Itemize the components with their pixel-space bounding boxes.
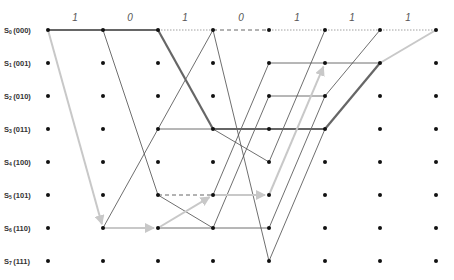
- state-node: [156, 193, 160, 197]
- transition-edge: [269, 96, 325, 228]
- state-node: [101, 94, 105, 98]
- state-node: [267, 61, 271, 65]
- state-node: [378, 28, 382, 32]
- transition-edge: [213, 129, 269, 162]
- state-node: [101, 28, 105, 32]
- highlight-path-arrow: [269, 67, 323, 195]
- state-node: [378, 226, 382, 230]
- state-node: [46, 226, 50, 230]
- state-node: [323, 259, 327, 263]
- state-node: [267, 193, 271, 197]
- state-labels: S0(000)S1(001)S2(010)S3(011)S4(100)S5(10…: [4, 26, 31, 267]
- state-node: [156, 127, 160, 131]
- state-label: S5(101): [4, 191, 31, 201]
- input-bit-label: 1: [72, 12, 78, 23]
- state-node: [434, 226, 438, 230]
- state-node: [211, 61, 215, 65]
- state-node: [156, 28, 160, 32]
- state-label: S7(111): [4, 257, 30, 267]
- state-node: [378, 160, 382, 164]
- state-node: [378, 193, 382, 197]
- state-node: [211, 226, 215, 230]
- state-node: [101, 226, 105, 230]
- state-node: [378, 61, 382, 65]
- transition-edge: [269, 129, 325, 261]
- state-node: [101, 127, 105, 131]
- transition-edge: [213, 96, 269, 228]
- state-node: [267, 94, 271, 98]
- state-node: [267, 226, 271, 230]
- input-bit-label: 1: [405, 12, 411, 23]
- state-node: [156, 226, 160, 230]
- state-node: [211, 127, 215, 131]
- state-node: [378, 127, 382, 131]
- transition-edge: [103, 129, 158, 228]
- state-node: [156, 160, 160, 164]
- input-bit-label: 0: [127, 12, 133, 23]
- state-label: S6(110): [4, 224, 31, 234]
- state-node: [323, 160, 327, 164]
- highlight-path-arrow: [48, 30, 102, 224]
- state-node: [156, 61, 160, 65]
- state-node: [267, 28, 271, 32]
- state-node: [434, 61, 438, 65]
- state-node: [46, 259, 50, 263]
- transition-edge: [103, 30, 158, 195]
- state-node: [323, 61, 327, 65]
- state-node: [378, 259, 382, 263]
- state-label: S4(100): [4, 158, 31, 168]
- state-node: [101, 61, 105, 65]
- state-node: [211, 259, 215, 263]
- state-node: [46, 127, 50, 131]
- state-node: [101, 160, 105, 164]
- state-node: [378, 94, 382, 98]
- highlight-path-arrow: [158, 197, 210, 228]
- input-bit-label: 1: [349, 12, 355, 23]
- state-node: [156, 94, 160, 98]
- state-node: [156, 259, 160, 263]
- highlight-path-arrow: [380, 30, 436, 63]
- state-label: S3(011): [4, 125, 31, 135]
- state-node: [323, 94, 327, 98]
- state-node: [211, 28, 215, 32]
- survivor-path-edge: [325, 63, 380, 129]
- state-label: S0(000): [4, 26, 31, 36]
- state-node: [46, 94, 50, 98]
- state-node: [434, 259, 438, 263]
- trellis-edges: [48, 30, 436, 261]
- state-node: [46, 160, 50, 164]
- state-node: [46, 61, 50, 65]
- state-label: S1(001): [4, 59, 31, 69]
- state-node: [323, 226, 327, 230]
- input-bit-label: 1: [182, 12, 188, 23]
- state-node: [211, 94, 215, 98]
- input-bit-label: 0: [238, 12, 244, 23]
- input-bit-label: 1: [294, 12, 300, 23]
- state-node: [101, 193, 105, 197]
- state-node: [211, 160, 215, 164]
- state-node: [101, 259, 105, 263]
- state-node: [46, 28, 50, 32]
- state-label: S2(010): [4, 92, 31, 102]
- state-node: [267, 160, 271, 164]
- state-node: [323, 127, 327, 131]
- state-node: [211, 193, 215, 197]
- state-node: [434, 160, 438, 164]
- trellis-diagram: S0(000)S1(001)S2(010)S3(011)S4(100)S5(10…: [0, 0, 454, 280]
- state-node: [434, 193, 438, 197]
- input-bit-labels: 1010111: [72, 12, 411, 23]
- state-node: [434, 28, 438, 32]
- state-node: [434, 127, 438, 131]
- state-node: [267, 259, 271, 263]
- state-node: [267, 127, 271, 131]
- state-node: [323, 193, 327, 197]
- state-node: [434, 94, 438, 98]
- state-node: [323, 28, 327, 32]
- state-node: [46, 193, 50, 197]
